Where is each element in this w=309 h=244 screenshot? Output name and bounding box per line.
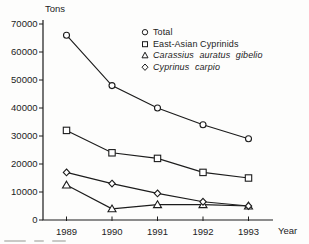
- diamond-marker: [109, 180, 115, 187]
- legend-label: Carassius auratus gibelio: [153, 50, 263, 60]
- square-marker: [154, 155, 160, 161]
- series-line-1: [67, 130, 249, 178]
- diamond-marker: [154, 190, 160, 197]
- circle-marker: [109, 83, 115, 89]
- y-tick-label: 20000: [11, 158, 37, 169]
- cropped-caption-mark: [4, 240, 26, 242]
- y-tick-label: 30000: [11, 130, 37, 141]
- y-tick-label: 40000: [11, 102, 37, 113]
- x-tick-label: 1992: [192, 226, 213, 237]
- circle-marker: [246, 136, 252, 142]
- y-tick-label: 0: [32, 214, 37, 225]
- y-tick-label: 70000: [11, 18, 37, 29]
- legend-item-total: Total: [140, 26, 263, 38]
- legend-label: East-Asian Cyprinids: [153, 39, 239, 49]
- square-marker: [63, 127, 69, 133]
- legend-item-east-asian-cyprinids: East-Asian Cyprinids: [140, 38, 263, 50]
- legend-label: Total: [153, 27, 173, 37]
- cropped-caption-fragment: [4, 240, 164, 244]
- x-tick-label: 1991: [147, 226, 168, 237]
- square-marker: [200, 169, 206, 175]
- y-tick-label: 10000: [11, 186, 37, 197]
- square-marker: [245, 175, 251, 181]
- circle-marker: [200, 122, 206, 128]
- square-marker: [109, 150, 115, 156]
- x-tick-label: 1989: [56, 226, 77, 237]
- legend-item-cyprinus-carpio: Cyprinus carpio: [140, 61, 263, 73]
- circle-marker: [155, 105, 161, 111]
- triangle-marker-icon: [140, 50, 150, 60]
- legend-item-carassius-auratus-gibelio: Carassius auratus gibelio: [140, 50, 263, 62]
- cropped-caption-mark: [34, 240, 44, 242]
- line-chart-figure: 0100002000030000400005000060000700001989…: [0, 0, 309, 244]
- x-axis-title: Year: [278, 226, 297, 236]
- y-tick-label: 50000: [11, 74, 37, 85]
- circle-marker: [64, 32, 70, 38]
- diamond-marker-icon: [140, 62, 150, 72]
- x-tick-label: 1990: [101, 226, 122, 237]
- y-axis-title: Tons: [45, 4, 65, 14]
- square-marker-icon: [140, 39, 150, 49]
- legend-label: Cyprinus carpio: [153, 62, 220, 72]
- cropped-caption-mark: [52, 240, 66, 242]
- circle-marker-icon: [140, 27, 150, 37]
- y-tick-label: 60000: [11, 46, 37, 57]
- triangle-marker: [63, 181, 71, 188]
- diamond-marker: [63, 169, 69, 176]
- x-tick-label: 1993: [238, 226, 259, 237]
- legend: Total East-Asian Cyprinids Carassius aur…: [140, 26, 263, 73]
